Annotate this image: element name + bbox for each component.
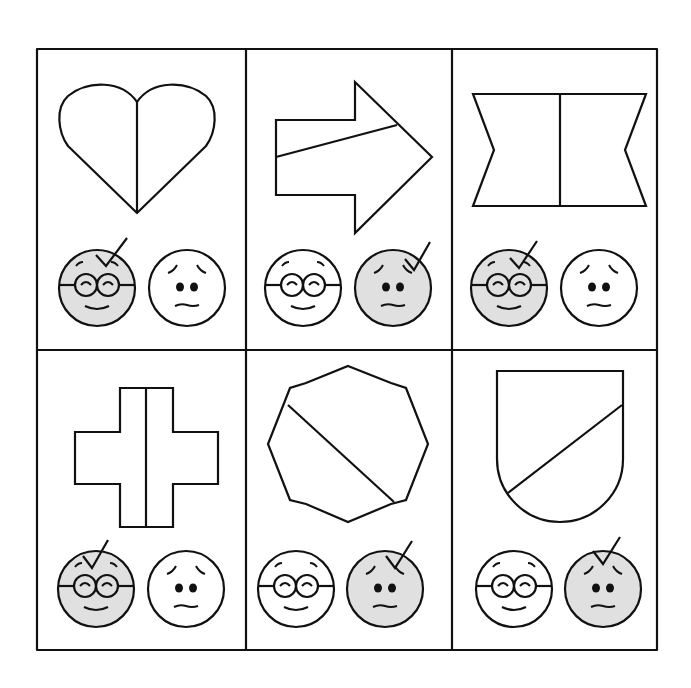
octagon-shape <box>268 366 428 522</box>
cell-bowtie <box>473 94 646 206</box>
cell-octagon <box>268 366 428 522</box>
worried-face-icon[interactable] <box>149 250 225 326</box>
worried-face-icon[interactable] <box>561 250 637 326</box>
symmetry-worksheet <box>0 0 691 688</box>
shield-shape <box>497 371 623 522</box>
happy-face-icon[interactable] <box>265 250 341 326</box>
worried-face-icon[interactable] <box>347 551 423 627</box>
worried-face-icon[interactable] <box>148 551 224 627</box>
happy-face-icon[interactable] <box>476 551 552 627</box>
happy-face-icon[interactable] <box>258 551 334 627</box>
cut-line <box>288 405 394 502</box>
happy-face-icon[interactable] <box>471 250 547 326</box>
cut-line <box>276 125 397 157</box>
cell-shield <box>497 371 623 522</box>
cut-line <box>508 405 622 493</box>
arrow-shape <box>276 82 432 233</box>
cell-cross <box>75 388 218 527</box>
cell-arrow <box>276 82 432 233</box>
cell-heart <box>59 85 214 213</box>
happy-face-icon[interactable] <box>59 250 135 326</box>
